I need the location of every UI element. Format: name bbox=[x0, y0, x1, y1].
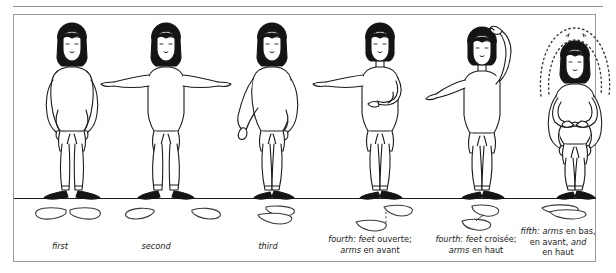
caption-fourth-croisee-line1-italic: fourth: feet bbox=[435, 234, 481, 244]
figure-fourth-croisee bbox=[432, 18, 532, 200]
caption-fourth-croisee-line2-roman: en haut bbox=[469, 245, 503, 255]
caption-fifth-label: fifth: bbox=[520, 226, 539, 236]
figure-first bbox=[22, 18, 122, 200]
feet-diagram-first bbox=[28, 203, 108, 235]
caption-fifth-line1-roman: en bas, bbox=[563, 226, 596, 236]
caption-fourth-ouverte-line2-roman: en avant bbox=[361, 245, 400, 255]
feet-diagram-second bbox=[118, 203, 228, 235]
caption-fifth-and-italic: and bbox=[571, 237, 586, 247]
caption-fourth-croisee-line1-roman: croisée; bbox=[482, 234, 517, 244]
caption-fifth-line2-roman: en avant, bbox=[530, 237, 571, 247]
caption-fifth-arms-italic: arms bbox=[542, 226, 563, 236]
caption-fourth-ouverte-line1-roman: ouverte; bbox=[375, 234, 412, 244]
caption-fourth-croisee-line2-italic: arms bbox=[449, 245, 470, 255]
feet-diagram-third bbox=[248, 203, 318, 235]
caption-second-text: second bbox=[141, 241, 170, 251]
caption-first-text: first bbox=[52, 241, 68, 251]
caption-fourth-ouverte-line1-italic: fourth: feet bbox=[328, 234, 374, 244]
figure-fifth bbox=[525, 18, 616, 200]
figure-third bbox=[222, 18, 322, 200]
top-divider-rule bbox=[13, 6, 603, 7]
feet-diagram-fourth-ouverte bbox=[348, 203, 428, 235]
caption-fourth-ouverte-line2-italic: arms bbox=[340, 245, 361, 255]
caption-fifth: fifth: arms en bas, en avant, and en hau… bbox=[520, 226, 596, 258]
feet-diagram-fourth-croisee bbox=[448, 203, 518, 235]
caption-third-text: third bbox=[258, 241, 277, 251]
caption-fifth-line3: en haut bbox=[542, 247, 573, 257]
ballet-positions-plate: first second third fourth: feet ouverte;… bbox=[0, 0, 616, 273]
caption-second: second bbox=[96, 241, 216, 252]
figure-fourth-ouverte bbox=[330, 18, 430, 200]
figure-second bbox=[116, 18, 216, 200]
